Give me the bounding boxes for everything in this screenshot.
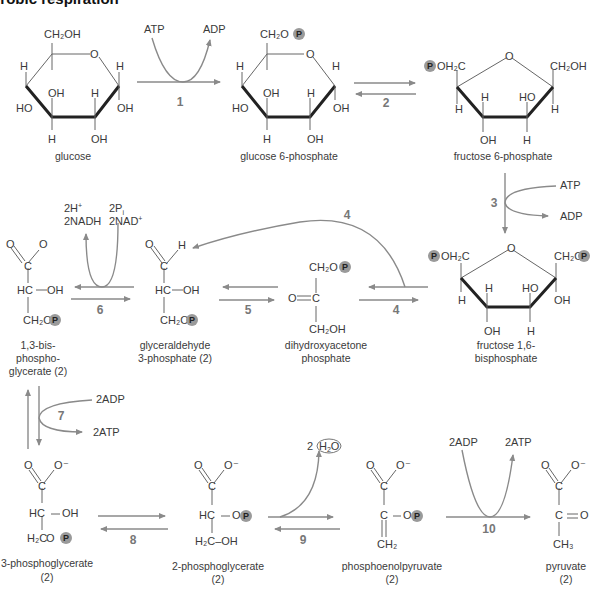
fructose-6-phosphate-structure: P OH₂C O CH₂OH H H HO H OH H fructose 6-… — [424, 50, 587, 162]
svg-text:O: O — [403, 509, 412, 521]
reaction-step-6: 2H+ 2NADH 2Pi 2NAD+ 6 — [64, 202, 142, 317]
svg-text:CH₂OH: CH₂OH — [309, 323, 346, 335]
svg-text:HC: HC — [17, 284, 33, 296]
svg-text:H: H — [458, 294, 466, 306]
pyruvate-structure: O O⁻ C C O CH₃ pyruvate (2) — [541, 459, 589, 585]
svg-text:H: H — [485, 282, 493, 294]
carboxylate-o-minus: O⁻ — [54, 459, 69, 471]
svg-text:C: C — [555, 480, 563, 492]
compound-label-f16bp-line1: fructose 1,6- — [477, 339, 536, 351]
svg-text:C: C — [208, 480, 216, 492]
svg-text:C: C — [24, 260, 32, 272]
svg-text:C: C — [380, 480, 388, 492]
svg-text:OH₂C: OH₂C — [437, 60, 466, 72]
svg-text:O⁻: O⁻ — [224, 459, 239, 471]
step6-output-nadh: 2NADH — [64, 215, 101, 227]
step3-output: ADP — [560, 210, 583, 222]
step-number-8: 8 — [130, 533, 137, 547]
svg-text:HC: HC — [155, 284, 171, 296]
compound-label-bpg-line2: phospho- — [16, 352, 60, 364]
svg-text:HC: HC — [29, 507, 45, 519]
reaction-step-1: ATP ADP 1 — [137, 23, 226, 109]
reaction-step-5: 5 — [219, 287, 278, 317]
2-phosphoglycerate-structure: O O⁻ C HC O P H₂C–OH 2-phosphoglycerate … — [172, 459, 264, 585]
compound-label-g3p-line2: 3-phosphate (2) — [138, 352, 212, 364]
svg-text:H: H — [455, 103, 463, 115]
svg-text:H₂C–OH: H₂C–OH — [195, 535, 238, 547]
svg-text:O: O — [507, 242, 516, 254]
step-number-3: 3 — [491, 196, 498, 210]
step7-output: 2ATP — [93, 426, 120, 438]
svg-text:O: O — [541, 459, 550, 471]
svg-text:OH₂C: OH₂C — [441, 250, 470, 262]
svg-text:CH₂: CH₂ — [377, 538, 397, 550]
compound-label-dhap-line1: dihydroxyacetone — [285, 339, 367, 351]
svg-text:O: O — [306, 48, 315, 60]
reaction-step-8: 8 — [98, 516, 168, 547]
svg-text:H: H — [523, 134, 531, 146]
compound-label-2pg-line1: 2-phosphoglycerate — [172, 560, 264, 572]
svg-text:O: O — [232, 509, 241, 521]
step-number-1: 1 — [177, 95, 184, 109]
svg-text:OH: OH — [48, 87, 65, 99]
glucose-structure: CH₂OH O H H OH H HO OH H OH glucose — [16, 28, 134, 162]
svg-text:OH: OH — [554, 294, 571, 306]
compound-label-glucose: glucose — [55, 150, 91, 162]
svg-text:O: O — [24, 459, 33, 471]
svg-text:HO: HO — [16, 102, 33, 114]
svg-text:H: H — [91, 87, 99, 99]
fructose-1-6-bisphosphate-structure: P OH₂C O CH₂O P H H HO OH OH H fructose … — [428, 242, 590, 364]
svg-text:C: C — [555, 509, 563, 521]
svg-text:P: P — [52, 315, 58, 325]
compound-label-2pg-line2: (2) — [212, 573, 225, 585]
step10-input: 2ADP — [449, 436, 478, 448]
svg-text:H₂C: H₂C — [27, 532, 47, 544]
svg-text:CH₂O: CH₂O — [260, 28, 289, 40]
svg-text:P: P — [63, 533, 69, 543]
svg-text:H: H — [263, 133, 271, 145]
svg-text:P: P — [414, 511, 420, 521]
step-number-7: 7 — [58, 409, 65, 423]
svg-text:CH₂OH: CH₂OH — [550, 60, 587, 72]
svg-text:OH: OH — [333, 102, 350, 114]
svg-text:HO: HO — [232, 102, 249, 114]
svg-text:HC: HC — [199, 509, 215, 521]
glyceraldehyde-3-phosphate-structure: O H C HC OH CH₂O P glyceraldehyde 3-phos… — [138, 238, 212, 364]
compound-label-dhap-line2: phosphate — [301, 352, 350, 364]
compound-label-bpg-line3: glycerate (2) — [9, 365, 67, 377]
svg-text:P: P — [243, 511, 249, 521]
svg-text:CH₂OH: CH₂OH — [44, 28, 81, 40]
svg-text:C: C — [38, 480, 46, 492]
svg-text:C: C — [312, 292, 320, 304]
step-number-9: 9 — [300, 533, 307, 547]
3-phosphoglycerate-structure: O O⁻ C HC OH H₂C O P 3-phosphoglycerate … — [1, 459, 93, 583]
step6-input-nad: 2NAD+ — [109, 215, 142, 227]
compound-label-g6p: glucose 6-phosphate — [240, 150, 338, 162]
svg-text:P: P — [296, 29, 302, 39]
step-number-2: 2 — [383, 96, 390, 110]
svg-text:O: O — [46, 532, 55, 544]
step-number-6: 6 — [97, 303, 104, 317]
reaction-step-7: 2ADP 2ATP 7 — [28, 386, 125, 449]
svg-text:O⁻: O⁻ — [571, 459, 586, 471]
compound-label-3pg-line1: 3-phosphoglycerate — [1, 557, 93, 569]
compound-label-f6p: fructose 6-phosphate — [454, 150, 553, 162]
svg-text:CH₂O: CH₂O — [309, 261, 338, 273]
svg-text:H: H — [332, 60, 340, 72]
svg-text:HO: HO — [519, 91, 536, 103]
svg-text:H: H — [48, 133, 56, 145]
svg-text:C: C — [380, 509, 388, 521]
compound-label-g3p-line1: glyceraldehyde — [140, 339, 211, 351]
step-number-4: 4 — [393, 303, 400, 317]
svg-text:OH: OH — [62, 507, 79, 519]
svg-text:H: H — [20, 60, 28, 72]
step9-output-water: H2O — [319, 440, 340, 453]
step1-input: ATP — [144, 23, 165, 35]
glycolysis-diagram: erobic respiration CH₂OH O H H OH H HO O… — [0, 0, 595, 592]
step3-input: ATP — [560, 179, 581, 191]
svg-text:O: O — [145, 238, 154, 250]
reaction-step-10: 2ADP 2ATP 10 — [446, 436, 532, 536]
dihydroxyacetone-phosphate-structure: CH₂O P O C CH₂OH dihydroxyacetone phosph… — [285, 261, 367, 364]
1-3-bisphosphoglycerate-structure: O O C HC OH CH₂O P 1,3-bis- phospho- gly… — [6, 238, 67, 377]
svg-text:OH: OH — [307, 133, 324, 145]
